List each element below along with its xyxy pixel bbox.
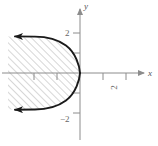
y-tick-label-2: 2 [65,29,70,38]
plot-canvas [0,0,158,146]
y-tick-label-minus-2: −2 [60,115,70,124]
x-axis-label: x [148,69,152,78]
parabola-figure: y x 2 −2 2 [0,0,158,146]
x-tick-label-2: 2 [110,85,119,90]
y-axis-label: y [84,2,88,11]
